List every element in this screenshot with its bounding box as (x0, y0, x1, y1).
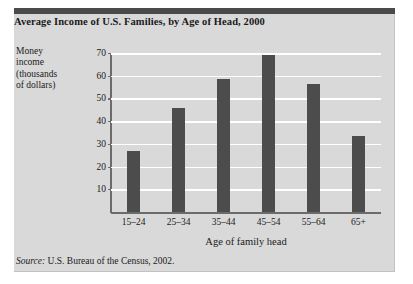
bar (307, 84, 320, 212)
y-tick-mark (108, 76, 112, 77)
y-tick-label: 30 (97, 139, 107, 149)
source-note: Source: U.S. Bureau of the Census, 2002. (16, 256, 175, 266)
bar (217, 79, 230, 212)
x-tick-label: 15–24 (112, 217, 156, 227)
source-text: U.S. Bureau of the Census, 2002. (48, 256, 175, 266)
y-tick-mark (108, 121, 112, 122)
y-tick-mark (108, 98, 112, 99)
y-tick-label: 20 (97, 162, 107, 172)
y-tick-label: 70 (97, 48, 107, 58)
bar (127, 151, 140, 212)
y-axis-caption-line-2: income (16, 57, 102, 68)
gridline (111, 144, 381, 146)
gridline (111, 189, 381, 191)
y-tick-label: 10 (97, 184, 107, 194)
x-axis-line (111, 212, 381, 214)
gridline (111, 53, 381, 55)
y-tick-mark (108, 53, 112, 54)
gridline (111, 121, 381, 123)
x-tick-label: 45–54 (247, 217, 291, 227)
y-axis-caption: Money income (thousands of dollars) (16, 46, 102, 92)
y-tick-label: 40 (97, 116, 107, 126)
gridline (111, 167, 381, 169)
chart-title: Average Income of U.S. Families, by Age … (14, 16, 374, 27)
x-tick-label: 55–64 (292, 217, 336, 227)
y-axis-caption-line-1: Money (16, 46, 102, 57)
y-tick-mark (108, 189, 112, 190)
gridline (111, 76, 381, 78)
plot-area: 10203040506070 15–2425–3435–4445–5455–64… (111, 53, 381, 212)
y-axis-caption-line-3: (thousands (16, 69, 102, 80)
gridline (111, 98, 381, 100)
y-tick-mark (108, 144, 112, 145)
bar (172, 108, 185, 212)
x-tick-label: 25–34 (157, 217, 201, 227)
panel-top-rule (14, 8, 395, 14)
bar (262, 55, 275, 212)
y-axis-caption-line-4: of dollars) (16, 80, 102, 91)
bar (352, 136, 365, 212)
x-axis-title: Age of family head (111, 236, 381, 247)
x-tick-label: 65+ (337, 217, 381, 227)
y-tick-mark (108, 167, 112, 168)
source-label: Source: (16, 256, 45, 266)
y-tick-label: 60 (97, 71, 107, 81)
x-tick-label: 35–44 (202, 217, 246, 227)
y-tick-label: 50 (97, 93, 107, 103)
